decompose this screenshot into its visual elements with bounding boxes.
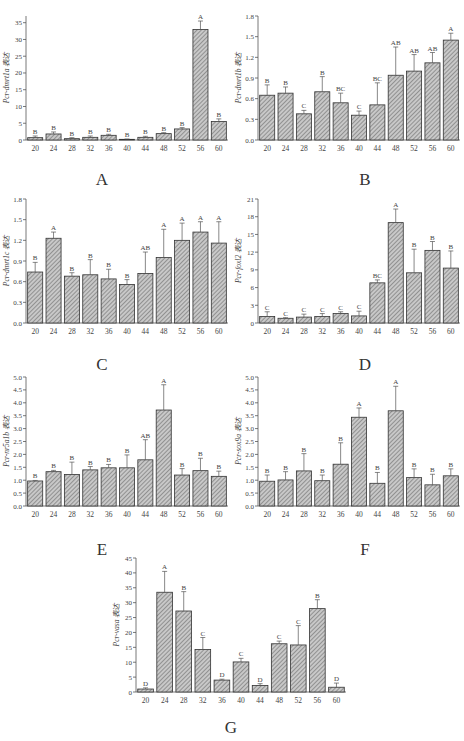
chart-panel-e: 0.00.51.01.52.02.53.03.54.04.55.0Pcr-nr5… xyxy=(0,371,232,526)
significance-letter: C xyxy=(338,304,343,312)
bar-40 xyxy=(233,662,249,692)
significance-letter: B xyxy=(198,450,203,458)
x-tick-label: 20 xyxy=(263,510,271,519)
x-tick-label: 60 xyxy=(447,144,455,153)
bar-36 xyxy=(333,464,348,506)
bar-28 xyxy=(296,114,311,140)
bar-28 xyxy=(296,317,311,323)
y-tick-label: 15 xyxy=(15,86,23,94)
bars: BBCBBCCBCABABABA xyxy=(260,25,459,140)
x-tick-label: 56 xyxy=(429,327,437,336)
bar-44 xyxy=(252,685,268,692)
significance-letter: C xyxy=(296,618,301,626)
y-axis: 0.00.30.60.91.21.51.8 xyxy=(13,196,26,328)
x-tick-label: 56 xyxy=(197,144,205,153)
y-tick-label: 0.5 xyxy=(13,490,22,498)
y-tick-label: 12 xyxy=(247,249,255,257)
x-tick-label: 48 xyxy=(160,327,168,336)
y-tick-label: 20 xyxy=(125,629,133,637)
bar-24 xyxy=(278,480,293,506)
y-axis: 0.00.51.01.52.02.53.03.54.04.55.0 xyxy=(13,374,26,511)
x-tick-label: 36 xyxy=(105,144,113,153)
x-tick-label: 24 xyxy=(282,327,290,336)
y-tick-label: 1.5 xyxy=(13,216,22,224)
y-tick-label: 0 xyxy=(251,320,255,328)
y-tick-label: 45 xyxy=(125,555,133,563)
bar-24 xyxy=(278,93,293,140)
x-tick-label: 60 xyxy=(215,510,223,519)
significance-letter: B xyxy=(412,461,417,469)
bar-chart-svg: 0.00.30.60.91.21.51.8Pcr-dmrt1b 表达BBCBBC… xyxy=(232,10,464,160)
y-tick-label: 10 xyxy=(15,103,23,111)
bars: BBBBBABABBB xyxy=(260,378,459,506)
significance-letter: B xyxy=(283,464,288,472)
significance-letter: B xyxy=(70,265,75,273)
x-tick-label: 40 xyxy=(123,327,131,336)
bar-36 xyxy=(101,135,116,140)
x-tick-label: 60 xyxy=(333,696,341,705)
bar-48 xyxy=(271,644,287,692)
y-tick-label: 1.2 xyxy=(13,237,22,245)
significance-letter: B xyxy=(180,461,185,469)
x-tick-label: 24 xyxy=(282,510,290,519)
significance-letter: B xyxy=(180,120,185,128)
y-tick-label: 5 xyxy=(19,120,23,128)
significance-letter: B xyxy=(216,463,221,471)
bar-chart-svg: 0.00.30.60.91.21.51.8Pcr-dmrt1c 表达BABBBB… xyxy=(0,193,232,343)
x-tick-label: 44 xyxy=(374,510,382,519)
x-tick-label: 28 xyxy=(300,327,308,336)
y-tick-label: 4.0 xyxy=(13,399,22,407)
bar-56 xyxy=(425,485,440,506)
x-tick-label: 20 xyxy=(263,144,271,153)
bar-36 xyxy=(333,314,348,323)
x-tick-label: 52 xyxy=(410,327,418,336)
y-tick-label: 1.8 xyxy=(245,13,254,21)
bar-52 xyxy=(175,240,190,323)
x-tick-label: 52 xyxy=(410,144,418,153)
y-tick-label: 0.9 xyxy=(245,75,254,83)
bar-chart-svg: 0.00.51.01.52.02.53.03.54.04.55.0Pcr-sox… xyxy=(232,371,464,526)
bar-36 xyxy=(214,680,230,692)
bar-28 xyxy=(296,471,311,506)
x-tick-label: 60 xyxy=(215,327,223,336)
y-tick-label: 0.6 xyxy=(245,95,254,103)
significance-letter: BC xyxy=(336,85,346,93)
significance-letter: B xyxy=(70,454,75,462)
x-tick-label: 24 xyxy=(50,144,58,153)
bars: BABBBBABAAAA xyxy=(28,214,227,323)
x-tick-label: 52 xyxy=(410,510,418,519)
x-tick-label: 24 xyxy=(50,510,58,519)
significance-letter: D xyxy=(143,680,148,688)
significance-letter: A xyxy=(448,25,453,33)
significance-letter: B xyxy=(88,128,93,136)
y-tick-label: 3.5 xyxy=(13,412,22,420)
bar-28 xyxy=(64,276,79,323)
significance-letter: C xyxy=(277,633,282,641)
x-tick-label: 32 xyxy=(319,510,327,519)
x-tick-label: 44 xyxy=(142,144,150,153)
chart-panel-d: 036912151821Pcr-foxl2 表达CCCCCCBCABBB2024… xyxy=(232,193,464,343)
x-tick-label: 20 xyxy=(263,327,271,336)
significance-letter: A xyxy=(161,377,166,385)
bar-48 xyxy=(156,134,171,140)
y-tick-label: 5.0 xyxy=(245,374,254,382)
significance-letter: B xyxy=(161,125,166,133)
significance-letter: C xyxy=(283,310,288,318)
x-tick-label: 32 xyxy=(199,696,207,705)
bar-32 xyxy=(195,649,211,692)
significance-letter: B xyxy=(265,467,270,475)
x-tick-label: 60 xyxy=(215,144,223,153)
y-tick-label: 0.6 xyxy=(13,278,22,286)
x-tick-label: 36 xyxy=(105,327,113,336)
x-tick-label: 36 xyxy=(105,510,113,519)
x-tick-label: 60 xyxy=(447,327,455,336)
x-tick-label: 56 xyxy=(429,510,437,519)
significance-letter: B xyxy=(143,128,148,136)
panel-label-a: A xyxy=(82,170,122,190)
significance-letter: B xyxy=(216,111,221,119)
y-axis: 0.00.30.60.91.21.51.8 xyxy=(245,13,258,145)
significance-letter: A xyxy=(198,13,203,21)
significance-letter: B xyxy=(320,467,325,475)
significance-letter: B xyxy=(448,243,453,251)
y-tick-label: 9 xyxy=(251,266,255,274)
